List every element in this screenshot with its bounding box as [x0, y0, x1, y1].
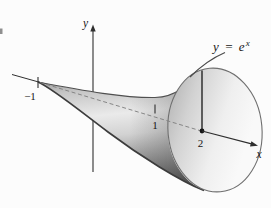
curve-equation-exponent: x — [245, 38, 250, 48]
tick-label-1: 1 — [152, 119, 158, 131]
diagram-canvas: y x y = ex −1 1 2 — [0, 0, 271, 208]
page-edge-artifact — [0, 29, 3, 35]
x-axis-label: x — [255, 148, 262, 160]
figure-solid-of-revolution: y x y = ex −1 1 2 — [0, 0, 271, 208]
y-axis-label: y — [82, 17, 89, 30]
tick-label-minus-1: −1 — [24, 90, 36, 102]
point-label-2: 2 — [198, 137, 204, 149]
curve-equation-label: y = ex — [211, 38, 250, 54]
curve-equation-base: y = e — [211, 39, 246, 54]
